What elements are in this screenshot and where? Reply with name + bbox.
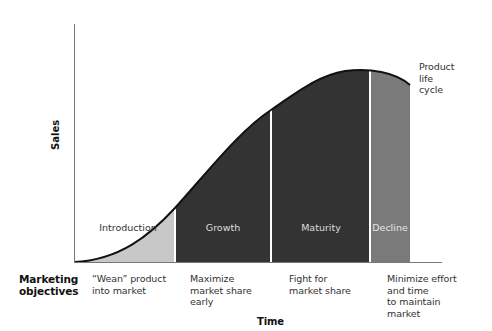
stage-label-growth: Growth	[190, 222, 256, 233]
marketing-objectives-row-label: Marketing objectives	[19, 273, 79, 297]
objective-introduction: “Wean” product into market	[92, 273, 166, 296]
divider-growth-maturity	[270, 0, 272, 262]
curve-label: Product life cycle	[419, 61, 454, 96]
product-life-cycle-diagram: Sales Introduction Growth Maturity Decli…	[0, 0, 492, 331]
stage-label-decline: Decline	[368, 222, 412, 233]
stage-label-introduction: Introduction	[88, 222, 168, 233]
objective-decline: Minimize effort and time to maintain mar…	[387, 273, 457, 319]
stage-label-maturity: Maturity	[285, 222, 357, 233]
y-axis-label: Sales	[50, 120, 61, 150]
objective-growth: Maximize market share early	[190, 273, 252, 308]
x-axis-label: Time	[257, 316, 284, 328]
divider-intro-growth	[174, 0, 176, 262]
objective-maturity: Fight for market share	[289, 273, 351, 296]
